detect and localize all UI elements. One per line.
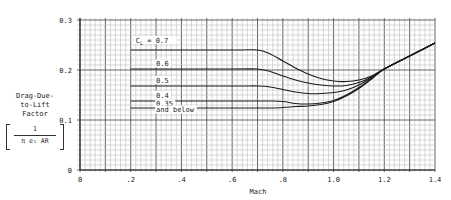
grid <box>77 18 435 172</box>
y-axis-formula: 1 π e₁ AR <box>6 124 64 150</box>
y-axis-label-line-1: Drag-Due- <box>2 92 68 101</box>
curve-label: 0.6 <box>156 60 169 68</box>
fraction-bar <box>14 135 56 136</box>
curve-label: and below <box>156 106 195 114</box>
x-tick-label: .2 <box>126 176 134 184</box>
y-axis-label-line-2: to-Lift <box>2 101 68 110</box>
x-tick-label: .4 <box>177 176 185 184</box>
x-tick-label: .8 <box>279 176 287 184</box>
y-axis-label: Drag-Due- to-Lift Factor <box>2 92 68 119</box>
x-axis-label: Mach <box>250 188 267 196</box>
x-tick-label: 0 <box>78 176 82 184</box>
y-axis-label-line-3: Factor <box>2 110 68 119</box>
y-tick-label: 0.3 <box>59 17 72 25</box>
formula-numerator: 1 <box>6 125 64 133</box>
bracket-right <box>60 124 64 150</box>
x-tick-label: .6 <box>228 176 236 184</box>
formula-denominator: π e₁ AR <box>6 137 64 145</box>
curve-label: 0.4 <box>156 92 169 100</box>
x-tick-label: 1.4 <box>429 176 442 184</box>
y-tick-label: 0 <box>68 167 72 175</box>
y-tick-label: 0.2 <box>59 67 72 75</box>
x-tick-label: 1.2 <box>378 176 391 184</box>
curve-label: 0.5 <box>156 77 169 85</box>
x-tick-label: 1.0 <box>327 176 340 184</box>
